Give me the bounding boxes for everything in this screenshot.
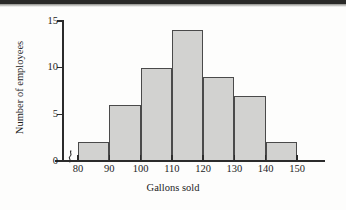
histogram-bar xyxy=(266,142,297,161)
y-axis-tick-mark xyxy=(57,67,64,68)
x-axis-tick-label: 120 xyxy=(188,163,218,174)
x-axis-tick-mark xyxy=(140,155,141,161)
x-axis-tick-mark xyxy=(265,155,266,161)
plot-area: 051015 8090100110120130140150 Gallons so… xyxy=(0,0,346,210)
y-axis-title: Number of employees xyxy=(14,23,25,153)
x-axis-tick-mark xyxy=(296,155,297,161)
x-axis-tick-mark xyxy=(171,155,172,161)
y-axis-tick-label: 5 xyxy=(53,109,58,119)
x-axis-tick-label: 150 xyxy=(282,163,312,174)
histogram-bar xyxy=(78,142,109,161)
x-axis-tick-mark xyxy=(77,155,78,161)
histogram-bar xyxy=(234,96,265,161)
x-axis-tick-label: 90 xyxy=(94,163,124,174)
histogram-bar xyxy=(109,105,140,161)
x-axis-tick-label: 80 xyxy=(63,163,93,174)
histogram-bar xyxy=(203,77,234,161)
bar-series xyxy=(0,0,346,210)
y-axis-tick-label: 0 xyxy=(53,156,58,166)
y-axis-tick-label: 15 xyxy=(48,16,59,26)
x-axis-title: Gallons sold xyxy=(0,182,346,193)
y-axis-tick-mark xyxy=(57,114,64,115)
x-axis-tick-label: 110 xyxy=(157,163,187,174)
x-axis-tick-mark xyxy=(234,155,235,161)
x-axis-tick-label: 100 xyxy=(126,163,156,174)
y-axis-tick-label: 10 xyxy=(48,62,59,72)
histogram-bar xyxy=(141,68,172,161)
x-axis-tick-label: 140 xyxy=(251,163,281,174)
x-axis-tick-mark xyxy=(109,155,110,161)
histogram-figure: 051015 8090100110120130140150 Gallons so… xyxy=(0,0,346,210)
x-axis-tick-mark xyxy=(202,155,203,161)
x-axis-tick-label: 130 xyxy=(219,163,249,174)
y-axis-line xyxy=(62,21,64,161)
x-axis-line xyxy=(55,160,325,162)
y-axis-tick-mark xyxy=(57,160,64,161)
axis-break-icon xyxy=(66,150,75,163)
histogram-bar xyxy=(172,30,203,161)
y-axis-tick-mark xyxy=(57,20,64,21)
